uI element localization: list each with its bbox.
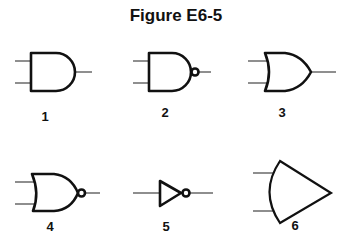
and-gate-icon xyxy=(31,53,75,91)
inversion-bubble-icon xyxy=(78,190,85,197)
gate-1-label: 1 xyxy=(41,109,48,124)
gate-3-or: 3 xyxy=(248,53,336,120)
gate-2-nand: 2 xyxy=(133,53,211,120)
gate-4-nor: 4 xyxy=(15,174,100,234)
nand-gate-icon xyxy=(149,53,191,91)
gate-6-label: 6 xyxy=(291,218,298,233)
gate-1-and: 1 xyxy=(15,53,92,124)
inversion-bubble-icon xyxy=(183,190,190,197)
nor-gate-icon xyxy=(32,174,78,211)
logic-gates-diagram: 1 2 3 4 5 6 xyxy=(0,0,352,242)
gate-3-label: 3 xyxy=(278,105,285,120)
inversion-bubble-icon xyxy=(192,69,199,76)
nonstandard-gate-icon xyxy=(270,161,332,223)
gate-5-label: 5 xyxy=(162,219,169,234)
gate-5-not: 5 xyxy=(133,181,213,234)
gate-6-nonstandard: 6 xyxy=(253,161,331,233)
gate-2-label: 2 xyxy=(161,105,168,120)
not-gate-icon xyxy=(160,181,181,206)
gate-4-label: 4 xyxy=(46,219,54,234)
or-gate-icon xyxy=(265,53,311,91)
